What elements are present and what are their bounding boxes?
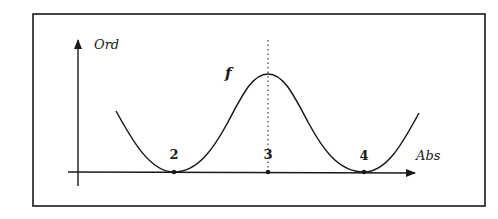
point-marker-2 — [172, 170, 176, 174]
y-axis-label: Ord — [94, 37, 119, 52]
point-marker-4 — [362, 170, 366, 174]
function-diagram: Ord Abs f 2 3 4 — [0, 0, 498, 219]
function-label: f — [224, 64, 234, 82]
x-axis-label: Abs — [415, 148, 441, 163]
point-label-3: 3 — [263, 147, 272, 162]
point-label-4: 4 — [359, 148, 368, 163]
point-label-2: 2 — [169, 147, 178, 162]
point-marker-3 — [266, 170, 270, 174]
